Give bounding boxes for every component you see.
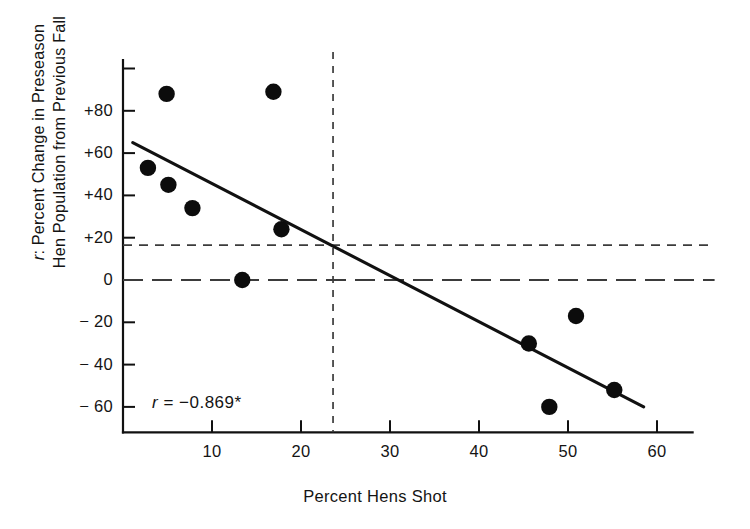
chart-figure: +80+60+40+200− 20− 40− 60 102030405060 P… — [0, 0, 750, 529]
data-point — [160, 177, 176, 193]
x-axis-tick-label: 60 — [632, 442, 682, 461]
data-point — [158, 86, 174, 102]
data-point — [140, 160, 156, 176]
correlation-annotation: r = −0.869* — [152, 393, 242, 413]
data-point — [273, 221, 289, 237]
y-axis-label-line-1: r: Percent Change in Preseason — [28, 0, 49, 352]
data-point — [265, 84, 281, 100]
data-points-group — [140, 84, 623, 416]
correlation-value: = −0.869* — [158, 393, 241, 412]
y-axis-tick-label: − 60 — [47, 397, 113, 416]
axes-group — [123, 60, 693, 432]
data-point — [541, 399, 557, 415]
regression-trend-line — [133, 143, 644, 407]
r-symbol: r — [29, 255, 47, 261]
y-axis-tick-label: − 40 — [47, 355, 113, 374]
x-axis-tick-label: 10 — [187, 442, 237, 461]
data-point — [234, 272, 250, 288]
x-axis-tick-label: 50 — [543, 442, 593, 461]
y-axis-label-line-1-rest: : Percent Change in Preseason — [29, 24, 47, 255]
x-axis-tick-label: 30 — [365, 442, 415, 461]
data-point — [568, 308, 584, 324]
data-point — [606, 382, 622, 398]
trend-line-group — [133, 143, 644, 407]
x-axis-tick-label: 40 — [454, 442, 504, 461]
data-point — [521, 335, 537, 351]
x-axis-label: Percent Hens Shot — [0, 487, 750, 506]
reference-lines-group — [123, 52, 715, 432]
x-axis-tick-label: 20 — [276, 442, 326, 461]
y-axis-label: r: Percent Change in Preseason Hen Popul… — [28, 0, 72, 352]
y-axis-label-line-2: Hen Population from Previous Fall — [49, 0, 70, 352]
data-point — [184, 200, 200, 216]
